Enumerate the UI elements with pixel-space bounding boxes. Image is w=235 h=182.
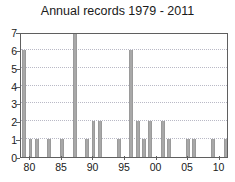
- x-tick-label-05: 05: [181, 162, 193, 173]
- y-tick-label-6: 6: [0, 46, 17, 57]
- y-tick-label-0: 0: [0, 153, 17, 164]
- y-tick-label-2: 2: [0, 117, 17, 128]
- x-tick-mark-00: [156, 156, 157, 160]
- bar-1985: [60, 139, 64, 157]
- gridline-y-4: [21, 85, 227, 86]
- bar-1980: [29, 139, 33, 157]
- y-axis: 01234567: [0, 33, 17, 158]
- y-tick-label-4: 4: [0, 81, 17, 92]
- bar-2002: [167, 139, 171, 157]
- gridline-y-6: [21, 49, 227, 50]
- bar-1997: [136, 121, 140, 157]
- plot-area: [20, 33, 228, 158]
- x-tick-label-10: 10: [213, 162, 225, 173]
- y-tick-label-1: 1: [0, 135, 17, 146]
- bar-1999: [148, 121, 152, 157]
- chart-title: Annual records 1979 - 2011: [0, 4, 235, 18]
- y-tick-mark-0: [16, 158, 20, 159]
- bar-1983: [47, 139, 51, 157]
- x-tick-label-80: 80: [24, 162, 36, 173]
- bar-2005: [186, 139, 190, 157]
- x-tick-mark-80: [29, 156, 30, 160]
- bar-1990: [92, 121, 96, 157]
- bar-1998: [142, 139, 146, 157]
- bar-2001: [161, 121, 165, 157]
- x-tick-mark-90: [92, 156, 93, 160]
- bar-1981: [35, 139, 39, 157]
- x-tick-mark-85: [61, 156, 62, 160]
- gridline-y-5: [21, 67, 227, 68]
- x-tick-mark-10: [219, 156, 220, 160]
- y-tick-label-3: 3: [0, 99, 17, 110]
- x-tick-mark-05: [187, 156, 188, 160]
- x-tick-label-85: 85: [55, 162, 67, 173]
- x-tick-label-00: 00: [150, 162, 162, 173]
- bar-1979: [22, 50, 26, 157]
- gridline-y-2: [21, 120, 227, 121]
- chart-figure: Annual records 1979 - 2011 01234567 8085…: [0, 0, 235, 182]
- bar-2009: [211, 139, 215, 157]
- y-tick-label-5: 5: [0, 63, 17, 74]
- bar-1994: [117, 139, 121, 157]
- bar-1996: [129, 50, 133, 157]
- bar-1987: [73, 33, 77, 157]
- y-tick-label-7: 7: [0, 28, 17, 39]
- bar-1989: [85, 139, 89, 157]
- x-tick-mark-95: [124, 156, 125, 160]
- x-tick-label-95: 95: [118, 162, 130, 173]
- bar-2011: [224, 139, 228, 157]
- x-tick-label-90: 90: [87, 162, 99, 173]
- gridline-y-3: [21, 102, 227, 103]
- bar-1991: [98, 121, 102, 157]
- x-axis: 80859095000510: [20, 160, 228, 180]
- bar-2006: [192, 139, 196, 157]
